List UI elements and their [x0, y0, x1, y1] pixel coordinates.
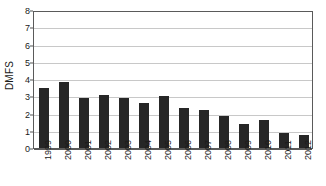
bar: [39, 88, 49, 148]
bar-chart: DMFS 012345678 1999200020012002200320042…: [0, 0, 326, 186]
y-axis-title-label: DMFS: [5, 60, 16, 89]
x-axis-tick-labels: 1999200020012002200320042005200620072008…: [33, 150, 313, 186]
x-tick-label-text: 2012: [303, 140, 313, 160]
bar: [59, 82, 69, 148]
plot-area: [33, 11, 313, 149]
bars-layer: [34, 12, 312, 148]
x-tick-label: 2012: [286, 150, 320, 184]
y-axis-tick-labels: 012345678: [16, 11, 30, 149]
